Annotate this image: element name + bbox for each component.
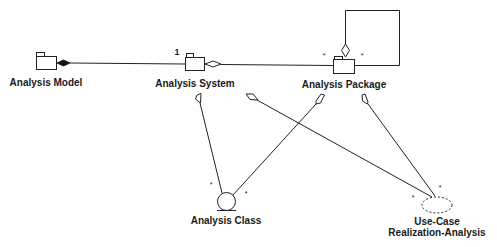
uml-diagram-canvas <box>0 0 497 247</box>
multiplicity-package-self: * <box>361 51 364 60</box>
analysis-class-entity-icon[interactable] <box>217 193 236 211</box>
analysis-package-label: Analysis Package <box>302 79 387 90</box>
aggregation-diamond-icon <box>246 94 258 100</box>
edge-system-ucr <box>257 100 432 197</box>
multiplicity-model-system: 1 <box>174 48 179 57</box>
aggregation-diamond-icon <box>362 94 368 104</box>
composition-diamond-icon <box>57 60 70 66</box>
analysis-model-package-icon[interactable] <box>37 53 57 70</box>
analysis-system-package-icon[interactable] <box>186 54 205 71</box>
use-case-realization-label-line2: Realization-Analysis <box>388 227 485 238</box>
analysis-system-label: Analysis System <box>155 78 235 89</box>
multiplicity-class-right: * <box>245 189 248 198</box>
edge-model-system <box>70 63 185 64</box>
edge-package-self-loop <box>346 11 400 66</box>
use-case-realization-label-line1: Use-Case <box>414 216 460 227</box>
analysis-class-label: Analysis Class <box>191 215 262 226</box>
edge-system-package <box>221 65 333 66</box>
multiplicity-ucr-top: * <box>439 183 442 192</box>
multiplicity-system-package: * <box>323 51 326 60</box>
analysis-package-package-icon[interactable] <box>334 57 355 74</box>
edge-package-class <box>233 104 316 195</box>
aggregation-diamond-icon <box>196 94 202 104</box>
use-case-realization-icon[interactable] <box>422 197 452 213</box>
edge-package-ucr <box>368 104 435 196</box>
aggregation-diamond-icon <box>205 61 221 67</box>
analysis-model-label: Analysis Model <box>10 77 83 88</box>
multiplicity-ucr-left: * <box>412 193 415 202</box>
aggregation-diamond-icon <box>342 44 350 57</box>
aggregation-diamond-icon <box>316 94 325 104</box>
multiplicity-class-left: * <box>210 180 213 189</box>
